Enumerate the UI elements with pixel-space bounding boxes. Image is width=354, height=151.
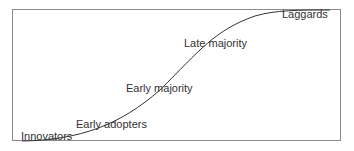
- label-laggards: Laggards: [282, 9, 328, 20]
- label-late-majority: Late majority: [184, 38, 247, 49]
- label-early-majority: Early majority: [126, 83, 193, 94]
- adoption-s-curve: [0, 0, 354, 151]
- label-innovators: Innovators: [21, 131, 72, 142]
- label-early-adopters: Early adopters: [76, 119, 147, 130]
